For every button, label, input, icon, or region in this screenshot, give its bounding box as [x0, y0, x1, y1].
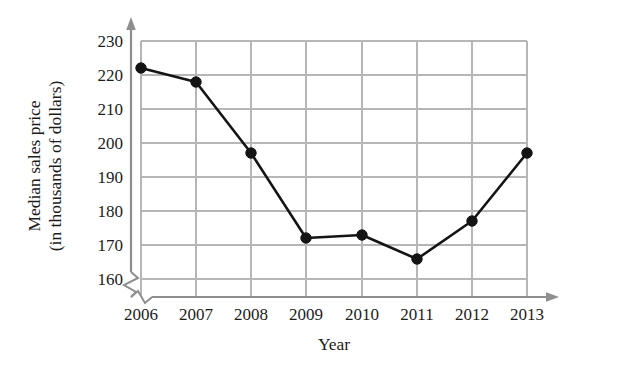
y-tick-label-190: 190 — [98, 168, 124, 187]
y-tick-label-210: 210 — [98, 100, 124, 119]
y-tick-label-160: 160 — [98, 270, 124, 289]
x-tick-label-2006: 2006 — [124, 305, 158, 324]
x-tick-label-2011: 2011 — [400, 305, 433, 324]
data-point-2009 — [301, 233, 311, 243]
y-tick-label-170: 170 — [98, 236, 124, 255]
data-point-2010 — [357, 230, 367, 240]
chart-figure: 230 220 210 200 190 180 170 160 2006 200… — [0, 0, 626, 369]
data-point-2011 — [412, 254, 422, 264]
line-chart: 230 220 210 200 190 180 170 160 2006 200… — [0, 0, 626, 369]
data-point-2012 — [467, 216, 477, 226]
data-point-2006 — [136, 63, 146, 73]
x-tick-label-2008: 2008 — [234, 305, 268, 324]
data-point-2007 — [191, 77, 201, 87]
x-tick-label-2012: 2012 — [455, 305, 489, 324]
data-point-2008 — [246, 148, 256, 158]
y-tick-label-180: 180 — [98, 202, 124, 221]
y-axis-title-line1: Median sales price — [24, 100, 44, 231]
y-axis-title-line2: (in thousands of dollars) — [45, 81, 65, 252]
x-axis-title: Year — [318, 334, 350, 354]
data-point-2013 — [522, 148, 532, 158]
y-tick-label-230: 230 — [98, 32, 124, 51]
y-tick-label-200: 200 — [98, 134, 124, 153]
x-tick-label-2013: 2013 — [510, 305, 544, 324]
x-tick-label-2010: 2010 — [345, 305, 379, 324]
x-tick-label-2009: 2009 — [289, 305, 323, 324]
y-tick-label-220: 220 — [98, 66, 124, 85]
x-tick-label-2007: 2007 — [179, 305, 214, 324]
